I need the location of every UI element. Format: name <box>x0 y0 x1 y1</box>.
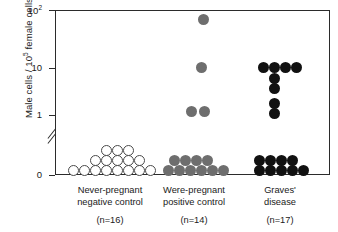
data-point <box>169 155 180 166</box>
x-category-line2: disease <box>225 197 335 209</box>
data-point <box>186 106 197 117</box>
data-point <box>145 165 156 176</box>
data-point <box>123 165 134 176</box>
data-point <box>123 155 134 166</box>
data-point <box>196 165 207 176</box>
y-tick-label-100: 102 <box>0 4 42 16</box>
data-point <box>287 155 298 166</box>
data-point <box>101 155 112 166</box>
y-tick-mark-0 <box>49 175 55 176</box>
data-point <box>101 165 112 176</box>
x-category-graves-disease: Graves'disease(n=17) <box>225 185 335 227</box>
data-point <box>199 106 210 117</box>
y-tick-label-1: 1 <box>0 109 42 120</box>
data-point <box>112 145 123 156</box>
data-point <box>291 62 302 73</box>
data-point <box>269 108 280 119</box>
data-point <box>68 165 79 176</box>
y-tick-label-10: 10 <box>0 62 42 73</box>
data-point <box>280 62 291 73</box>
data-point <box>79 165 90 176</box>
chart-root: Male cells / 105 female cells 1021010 Ne… <box>0 0 338 232</box>
plot-area <box>55 10 330 175</box>
data-point <box>269 73 280 84</box>
data-point <box>174 165 185 176</box>
data-point <box>207 165 218 176</box>
data-point <box>265 155 276 166</box>
data-point <box>134 165 145 176</box>
data-point <box>254 165 265 176</box>
data-point <box>134 155 145 166</box>
data-point <box>90 155 101 166</box>
data-point <box>254 155 265 166</box>
x-category-count: (n=17) <box>225 215 335 227</box>
data-point <box>269 98 280 109</box>
data-point <box>185 165 196 176</box>
y-axis-label-exponent: 5 <box>22 52 29 56</box>
data-point <box>202 155 213 166</box>
data-point <box>101 145 112 156</box>
data-point <box>180 155 191 166</box>
data-point <box>269 83 280 94</box>
data-point <box>191 155 202 166</box>
x-category-line1: Graves' <box>225 185 335 197</box>
data-point <box>112 165 123 176</box>
data-point <box>198 14 209 25</box>
data-point <box>90 165 101 176</box>
data-point <box>298 165 309 176</box>
data-point <box>123 145 134 156</box>
data-point <box>276 155 287 166</box>
data-point <box>287 165 298 176</box>
y-tick-label-0: 0 <box>0 169 42 180</box>
data-point <box>258 62 269 73</box>
data-point <box>218 165 229 176</box>
data-point <box>276 165 287 176</box>
data-point <box>112 155 123 166</box>
data-point <box>269 62 280 73</box>
data-point <box>196 62 207 73</box>
data-point <box>163 165 174 176</box>
data-point <box>265 165 276 176</box>
